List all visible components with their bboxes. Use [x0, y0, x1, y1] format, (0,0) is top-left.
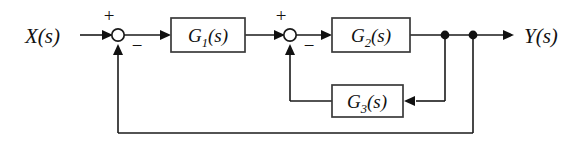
control-system-block-diagram: G1(s) G2(s) G3(s) + − + − X(s) Y(s) [0, 0, 570, 146]
input-signal-label: X(s) [24, 24, 60, 48]
summing-junction-2-plus-sign: + [276, 5, 287, 26]
arrowhead-into-sum2-feedback [285, 44, 295, 55]
summing-junction-1-plus-sign: + [104, 5, 115, 26]
arrowhead-into-g3 [404, 96, 415, 106]
summing-junction-1[interactable] [112, 29, 124, 41]
junction-dot-inner-tap [441, 31, 450, 40]
output-signal-label: Y(s) [524, 24, 558, 48]
arrowhead-into-sum1-feedback [113, 44, 123, 55]
arrowhead-into-g2 [321, 30, 332, 40]
block-diagram-canvas: G1(s) G2(s) G3(s) + − + − X(s) Y(s) [0, 0, 570, 146]
junction-dot-outer-tap [469, 31, 478, 40]
arrowhead-to-output [503, 30, 514, 40]
summing-junction-2[interactable] [284, 29, 296, 41]
summing-junction-2-minus-sign: − [304, 35, 315, 56]
summing-junction-1-minus-sign: − [132, 35, 143, 56]
arrowhead-into-g1 [160, 30, 171, 40]
